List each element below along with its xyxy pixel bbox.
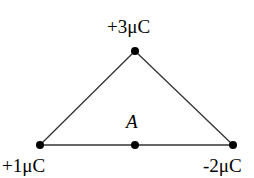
charge-label-top: +3μC [107,17,150,36]
edge-right [135,51,233,145]
point-a-label: A [126,112,138,131]
point-a-dot [131,141,139,149]
charge-dot-right [229,141,237,149]
charge-dot-top [131,47,139,55]
edge-left [40,51,135,145]
charge-label-right: -2μC [203,156,242,175]
charge-dot-left [36,141,44,149]
charge-label-left: +1μC [2,156,45,175]
